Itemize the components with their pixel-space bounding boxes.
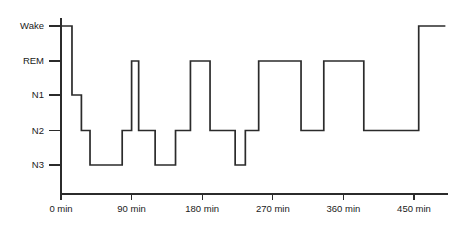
x-tick-label-450: 450 min: [397, 203, 431, 214]
x-tick-label-0: 0 min: [49, 203, 72, 214]
y-axis-tick-labels: WakeREMN1N2N3: [20, 20, 44, 170]
y-tick-label-rem: REM: [23, 55, 44, 66]
x-axis-ticks: [61, 194, 414, 200]
hypnogram-chart: WakeREMN1N2N3 0 min90 min180 min270 min3…: [0, 0, 451, 235]
hypnogram-plot-area: WakeREMN1N2N3 0 min90 min180 min270 min3…: [0, 0, 451, 235]
x-axis: [61, 194, 448, 200]
x-tick-label-90: 90 min: [117, 203, 146, 214]
x-axis-tick-labels: 0 min90 min180 min270 min360 min450 min: [49, 203, 431, 214]
y-axis-ticks: [49, 26, 61, 165]
x-tick-label-270: 270 min: [256, 203, 290, 214]
y-tick-label-n2: N2: [32, 125, 44, 136]
sleep-stage-trace: [52, 26, 446, 165]
y-tick-label-wake: Wake: [20, 20, 44, 31]
x-tick-label-180: 180 min: [185, 203, 219, 214]
y-tick-label-n1: N1: [32, 89, 44, 100]
y-axis: [49, 18, 61, 194]
x-tick-label-360: 360 min: [326, 203, 360, 214]
y-tick-label-n3: N3: [32, 159, 44, 170]
